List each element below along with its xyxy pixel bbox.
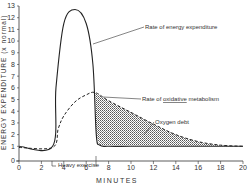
oxygen-debt-label: Oxygen debt: [155, 119, 189, 125]
y-tick-label: 0: [11, 157, 15, 164]
y-tick-label: 13: [7, 2, 15, 9]
y-tick-label: 2: [11, 131, 15, 138]
x-tick-label: 16: [194, 164, 202, 171]
y-tick-label: 1: [11, 143, 15, 150]
heavy-exercise-label: Heavy exercise: [58, 162, 100, 168]
y-tick-label: 9: [11, 49, 15, 56]
x-tick-label: 10: [127, 164, 135, 171]
y-tick-label: 6: [11, 84, 15, 91]
x-tick-label: 18: [217, 164, 225, 171]
y-tick-label: 4: [11, 108, 15, 115]
oxygen-debt-chart: 01234567891011121302468101214161820 Rate…: [0, 0, 252, 185]
x-tick-label: 8: [107, 164, 111, 171]
x-tick-label: 14: [172, 164, 180, 171]
energy-expenditure-label: Rate of energy expenditure: [145, 24, 218, 30]
x-tick-label: 12: [150, 164, 158, 171]
y-tick-label: 12: [7, 14, 15, 21]
oxidative-pointer: [103, 97, 141, 99]
x-axis-label: MINUTES: [96, 177, 138, 184]
x-tick-label: 20: [239, 164, 247, 171]
y-tick-label: 3: [11, 119, 15, 126]
y-tick-label: 11: [8, 26, 15, 33]
y-tick-label: 7: [11, 73, 15, 80]
energy-pointer: [93, 27, 144, 44]
oxidative-metabolism-label: Rate of oxidative metabolism: [142, 96, 219, 102]
y-axis-label: ENERGY EXPENDITURE (x normal): [0, 15, 8, 150]
x-tick-label: 0: [17, 164, 21, 171]
annotations: Rate of energy expenditure Rate of oxida…: [0, 15, 219, 184]
y-tick-label: 8: [11, 61, 15, 68]
y-tick-label: 10: [7, 37, 15, 44]
x-tick-label: 2: [39, 164, 43, 171]
y-tick-label: 5: [11, 96, 15, 103]
